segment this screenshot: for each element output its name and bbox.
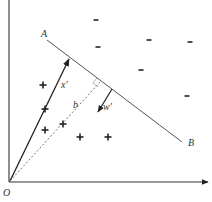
plus-point — [60, 121, 67, 128]
plus-point — [77, 134, 84, 141]
label-w-prime: w′ — [103, 101, 113, 112]
plus-point — [42, 127, 49, 134]
label-origin: O — [3, 187, 10, 198]
plus-point — [105, 134, 112, 141]
label-x-prime: x′ — [60, 79, 68, 90]
negative-points — [94, 20, 193, 96]
label-b-end: B — [188, 137, 194, 148]
vector-x — [10, 59, 69, 181]
offset-b-line — [10, 81, 101, 181]
label-b-offset: b — [73, 99, 78, 110]
diagram-canvas: O A B x′ w′ b — [0, 0, 212, 202]
positive-points — [40, 82, 112, 141]
plus-point — [42, 106, 49, 113]
plus-point — [40, 82, 47, 89]
label-a: A — [40, 28, 48, 39]
line-ab — [47, 40, 182, 142]
